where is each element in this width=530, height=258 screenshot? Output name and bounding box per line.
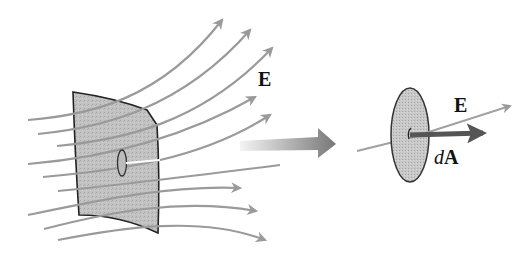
area-vector-dA: [410, 133, 483, 135]
diagram-canvas: E E dA: [0, 0, 530, 258]
magnify-arrow: [240, 128, 336, 158]
label-field-E-left: E: [258, 69, 271, 89]
diagram-svg: [0, 0, 530, 258]
label-area-A: A: [444, 146, 458, 168]
label-area-d: d: [434, 146, 444, 168]
field-line: [58, 226, 265, 240]
label-field-E-right: E: [454, 95, 467, 115]
label-area-vector: dA: [434, 147, 458, 167]
area-element-small: [118, 150, 127, 176]
